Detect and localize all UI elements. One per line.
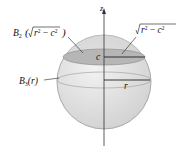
- svg-text:r2 − c2: r2 − c2: [34, 28, 58, 38]
- ball-label: B3(r): [19, 76, 38, 87]
- cap-ball-label: B2 ( r2 − c2 ): [13, 26, 66, 39]
- cap-radius-label: r2 − c2: [136, 24, 176, 35]
- svg-text:B2: B2: [13, 28, 22, 39]
- svg-text:(: (: [25, 26, 30, 39]
- svg-text:B3(r): B3(r): [19, 76, 38, 87]
- svg-text:r2 − c2: r2 − c2: [141, 25, 165, 35]
- radius-label: r: [124, 81, 128, 91]
- svg-text:): ): [61, 26, 66, 39]
- sphere-diagram: z B2 ( r2 − c2 ) r2 − c2 B3(r) c r: [0, 0, 188, 146]
